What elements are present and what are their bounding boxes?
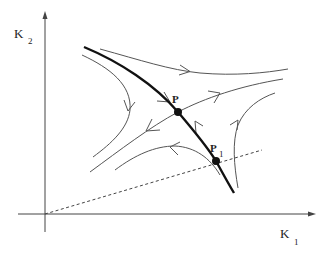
x-axis-label-subscript: 1 <box>294 237 299 247</box>
lower-arc-trajectory <box>115 146 220 175</box>
arrow-into-p-lower-icon <box>195 121 203 133</box>
right-trajectory <box>234 93 275 188</box>
upper-left-trajectory <box>82 55 130 157</box>
arrow-right-up-icon <box>208 91 220 103</box>
y-axis-label-subscript: 2 <box>28 36 33 46</box>
x-axis-arrowhead-icon <box>308 212 316 217</box>
point-p1-label: P <box>210 142 217 154</box>
ray-from-origin <box>45 150 262 214</box>
arrow-left-down-icon <box>146 119 160 131</box>
phase-portrait-diagram: K 2 K 1 P P 1 <box>0 0 328 255</box>
axes <box>18 11 316 232</box>
point-p <box>174 108 182 116</box>
x-axis-label: K <box>280 226 290 241</box>
point-p-label: P <box>172 93 179 105</box>
arrow-up-icon <box>230 120 238 130</box>
y-axis-arrowhead-icon <box>43 11 48 19</box>
point-p1-subscript: 1 <box>219 149 224 159</box>
y-axis-label: K <box>14 26 24 41</box>
arrow-left-icon <box>170 142 180 155</box>
unstable-manifold <box>90 79 283 172</box>
